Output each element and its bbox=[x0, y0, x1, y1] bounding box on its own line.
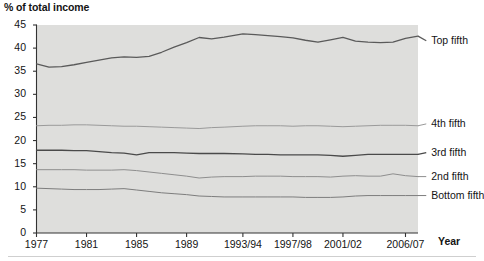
series-label-top-fifth: Top fifth bbox=[431, 35, 468, 46]
series-leader-4th-fifth bbox=[418, 124, 426, 126]
y-tick-label: 25 bbox=[0, 111, 26, 122]
y-tick-label: 0 bbox=[0, 227, 26, 238]
plot-area bbox=[0, 0, 484, 261]
plot-background bbox=[37, 25, 419, 233]
y-tick-label: 20 bbox=[0, 135, 26, 146]
series-leader-3rd-fifth bbox=[418, 153, 426, 155]
y-tick-label: 15 bbox=[0, 158, 26, 169]
chart-container: % of total income Year 05101520253035404… bbox=[0, 0, 484, 261]
y-tick-label: 40 bbox=[0, 42, 26, 53]
series-label-2nd-fifth: 2nd fifth bbox=[431, 171, 468, 182]
y-tick-label: 30 bbox=[0, 88, 26, 99]
series-label-4th-fifth: 4th fifth bbox=[431, 118, 465, 129]
y-tick-label: 35 bbox=[0, 65, 26, 76]
plot-background-group bbox=[37, 25, 419, 233]
y-tick-label: 5 bbox=[0, 204, 26, 215]
series-label-3rd-fifth: 3rd fifth bbox=[431, 147, 466, 158]
series-label-bottom-fifth: Bottom fifth bbox=[431, 190, 484, 201]
footer-rule bbox=[8, 256, 476, 257]
y-tick-label: 10 bbox=[0, 181, 26, 192]
y-tick-label: 45 bbox=[0, 19, 26, 30]
x-tick-label: 2001/02 bbox=[308, 239, 378, 250]
x-tick-label: 2006/07 bbox=[370, 239, 440, 250]
series-leader-top-fifth bbox=[418, 36, 426, 41]
